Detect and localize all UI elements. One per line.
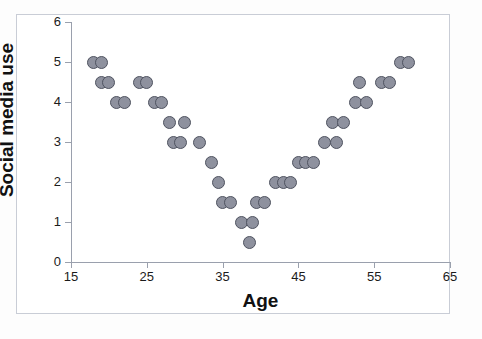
scatter-plot-figure: 0123456 152535455565 Social media use Ag… (0, 0, 482, 339)
scatter-point (307, 156, 320, 169)
scatter-point (224, 196, 237, 209)
scatter-point (140, 76, 153, 89)
scatter-point (193, 136, 206, 149)
scatter-point (102, 76, 115, 89)
scatter-point (95, 56, 108, 69)
scatter-point (118, 96, 131, 109)
scatter-point (174, 136, 187, 149)
scatter-point (205, 156, 218, 169)
scatter-point (163, 116, 176, 129)
scatter-point (383, 76, 396, 89)
scatter-point (360, 96, 373, 109)
scatter-point (353, 76, 366, 89)
scatter-point (337, 116, 350, 129)
scatter-point (178, 116, 191, 129)
scatter-point (155, 96, 168, 109)
scatter-point (402, 56, 415, 69)
scatter-point (284, 176, 297, 189)
y-axis-title-text: Social media use (0, 0, 18, 240)
scatter-point (212, 176, 225, 189)
scatter-point (243, 236, 256, 249)
scatter-point (330, 136, 343, 149)
scatter-point (246, 216, 259, 229)
scatter-point (258, 196, 271, 209)
x-axis-title: Age (71, 290, 450, 312)
data-points-layer (0, 0, 482, 339)
